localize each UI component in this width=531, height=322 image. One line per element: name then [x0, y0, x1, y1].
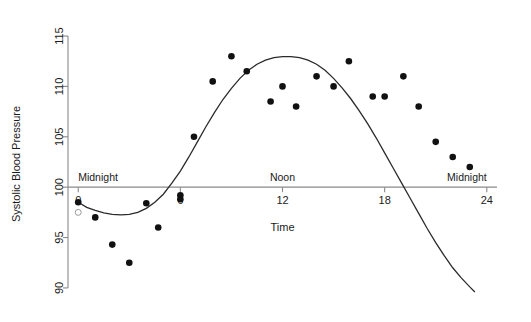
chart-canvas: 9095100105110115Systolic Blood Pressure0… [0, 0, 531, 322]
data-point-s0-24 [466, 164, 473, 171]
y-tick-label-105: 105 [53, 128, 65, 146]
data-point-s0-14 [293, 103, 300, 110]
data-point-s0-21 [415, 103, 422, 110]
y-tick-label-100: 100 [53, 178, 65, 196]
data-point-s0-20 [400, 73, 407, 80]
data-point-s0-3 [126, 259, 133, 266]
annotation-midnight-0: Midnight [78, 171, 118, 183]
data-point-s0-1 [92, 214, 99, 221]
data-point-s0-2 [109, 241, 116, 248]
data-point-s0-12 [267, 98, 274, 105]
data-point-s0-22 [432, 139, 439, 146]
data-point-s0-23 [449, 154, 456, 161]
annotation-noon-1: Noon [270, 171, 295, 183]
y-tick-label-115: 115 [53, 27, 65, 45]
data-point-s0-11 [243, 68, 250, 75]
data-point-s0-10 [228, 53, 235, 60]
x-tick-label-12: 12 [276, 194, 288, 206]
y-tick-label-110: 110 [53, 78, 65, 96]
data-point-s0-0 [75, 199, 82, 206]
y-axis-title: Systolic Blood Pressure [10, 106, 22, 222]
data-point-s0-16 [330, 83, 337, 90]
annotation-midnight-2: Midnight [447, 171, 487, 183]
data-point-s0-18 [369, 93, 376, 100]
data-point-s0-9 [209, 78, 216, 85]
x-tick-label-18: 18 [379, 194, 391, 206]
data-point-s0-4 [143, 200, 150, 207]
data-point-s0-5 [155, 224, 162, 231]
data-point-s0-15 [313, 73, 320, 80]
data-point-s0-8 [191, 133, 198, 140]
x-axis-title: Time [270, 221, 294, 233]
y-tick-label-90: 90 [53, 282, 65, 294]
data-point-s0-13 [279, 83, 286, 90]
data-point-s0-7 [177, 196, 184, 203]
blood-pressure-chart: 9095100105110115Systolic Blood Pressure0… [0, 0, 531, 322]
y-tick-label-95: 95 [53, 231, 65, 243]
data-point-s1-0 [75, 209, 81, 215]
data-point-s0-17 [346, 58, 353, 65]
x-tick-label-24: 24 [481, 194, 493, 206]
data-point-s0-19 [381, 93, 388, 100]
